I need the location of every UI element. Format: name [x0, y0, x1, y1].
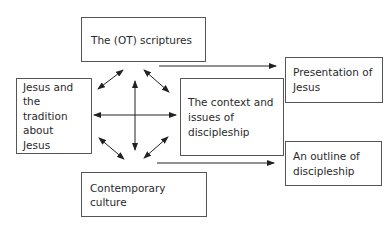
node-ot-scriptures: The (OT) scriptures	[81, 17, 206, 62]
node-outline-of-discipleship: An outline of discipleship	[285, 141, 382, 186]
arrow-context-culture	[144, 137, 168, 158]
node-context-discipleship: The context and issues of discipleship	[180, 78, 284, 156]
node-label: An outline of discipleship	[293, 149, 373, 179]
node-label: The (OT) scriptures	[91, 33, 192, 47]
node-label: Contemporary culture	[90, 181, 198, 209]
node-label: Presentation of Jesus	[293, 65, 374, 95]
node-contemporary-culture: Contemporary culture	[81, 172, 207, 217]
arrow-scriptures-context	[144, 70, 169, 92]
node-label: Jesus and the tradition about Jesus	[23, 80, 83, 153]
arrow-jesus-culture	[99, 138, 124, 159]
node-jesus-tradition: Jesus and the tradition about Jesus	[16, 78, 92, 154]
node-label: The context and issues of discipleship	[188, 95, 274, 140]
node-presentation-of-jesus: Presentation of Jesus	[285, 57, 383, 103]
arrow-scriptures-jesus	[98, 70, 123, 89]
